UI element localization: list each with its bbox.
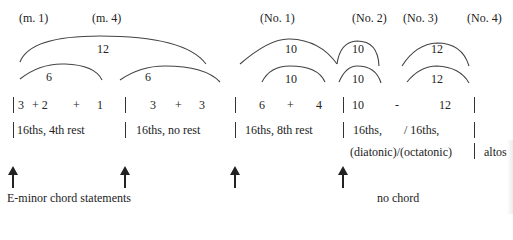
rhythm-label-1: 16ths, 4th rest: [17, 123, 85, 137]
arc-label-inner-10-no1: 10: [285, 72, 297, 86]
group2-term: 3: [199, 98, 205, 112]
modes-label: (diatonic)/(octatonic): [350, 145, 452, 159]
group1-term: +: [73, 98, 80, 112]
arc-label-outer-10-no2: 10: [352, 42, 364, 56]
page-edge-shadow: [507, 140, 513, 214]
group2-term: 3: [150, 98, 156, 112]
bar-line: [13, 122, 14, 138]
no-chord-label: no chord: [377, 191, 419, 205]
bar-line: [125, 97, 126, 113]
arc-label-inner-10-no2: 10: [352, 72, 364, 86]
arc-label-inner-12-no3: 12: [431, 72, 443, 86]
altos-label: altos: [484, 145, 507, 159]
arc-label-inner-6a: 6: [46, 70, 52, 84]
bar-line: [474, 97, 475, 113]
group2-term: +: [175, 98, 182, 112]
arc-label-outer-10-no1: 10: [285, 42, 297, 56]
bar-line: [343, 97, 344, 113]
group4-term: 12: [439, 98, 451, 112]
arc-label-outer-12-no3: 12: [431, 42, 443, 56]
group3-term: +: [287, 98, 294, 112]
up-arrow-icon: [338, 166, 348, 188]
bar-line: [474, 122, 475, 138]
arc-label-inner-6b: 6: [145, 70, 151, 84]
group3-term: 6: [259, 98, 265, 112]
bar-line: [125, 122, 126, 138]
arc-inner-6a: [20, 64, 102, 80]
bar-line: [235, 97, 236, 113]
rhythm-label-4b: / 16ths,: [404, 123, 439, 137]
up-arrow-icon: [230, 166, 240, 188]
group1-term: 1: [97, 98, 103, 112]
arc-inner-6b: [120, 66, 220, 82]
rhythm-label-3: 16ths, 8th rest: [245, 123, 313, 137]
rhythm-label-4a: 16ths,: [353, 123, 382, 137]
arc-outer-12: [20, 36, 206, 64]
group4-term: 10: [352, 98, 364, 112]
bar-line: [13, 97, 14, 113]
bar-line: [235, 122, 236, 138]
up-arrow-icon: [8, 166, 18, 188]
group4-term: -: [395, 98, 399, 112]
group1-term: + 2: [32, 98, 48, 112]
arc-label-outer-12: 12: [97, 42, 109, 56]
up-arrow-icon: [120, 166, 130, 188]
group3-term: 4: [316, 98, 322, 112]
group1-term: 3: [18, 98, 24, 112]
rhythm-label-2: 16ths, no rest: [136, 123, 200, 137]
bar-line: [343, 122, 344, 138]
bar-line: [474, 143, 475, 159]
chord-statements-label: E-minor chord statements: [7, 191, 131, 205]
